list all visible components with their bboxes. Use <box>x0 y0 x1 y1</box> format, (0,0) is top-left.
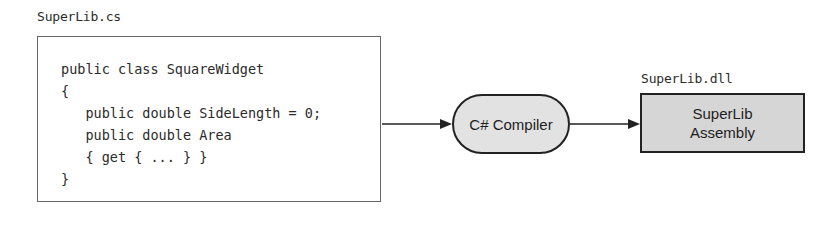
assembly-label-line2: Assembly <box>690 123 755 142</box>
compiler-label: C# Compiler <box>469 116 552 133</box>
arrow-compiler-to-assembly <box>570 119 640 129</box>
arrow-source-to-compiler <box>382 119 452 129</box>
output-file-label: SuperLib.dll <box>641 71 733 86</box>
compiler-node: C# Compiler <box>452 94 570 154</box>
assembly-label-line1: SuperLib <box>692 104 752 123</box>
assembly-node: SuperLib Assembly <box>640 93 805 153</box>
